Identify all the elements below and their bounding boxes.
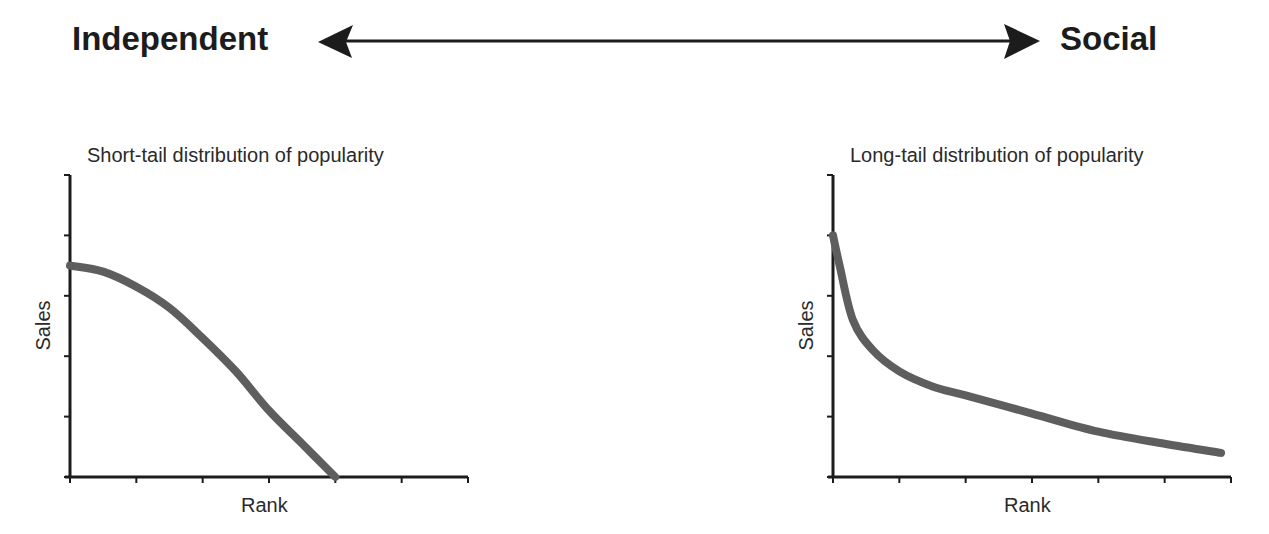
long-tail-axes (827, 175, 1231, 483)
long-tail-chart (0, 0, 1269, 534)
long-tail-curve (833, 235, 1221, 452)
